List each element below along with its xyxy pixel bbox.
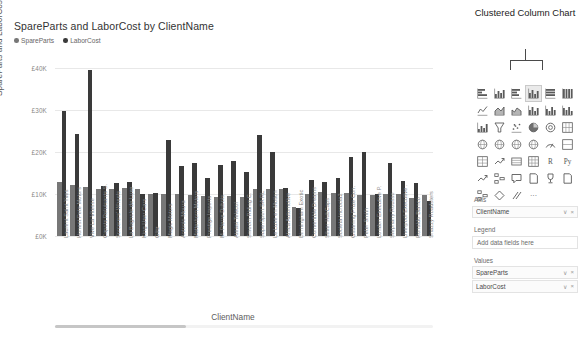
x-axis-tick-label: M. Pierre Dubois xyxy=(219,195,225,238)
y-axis-tick-label: £40K xyxy=(31,65,47,72)
x-axis-tick-label: Glitz xyxy=(154,226,160,238)
python-visual-icon[interactable]: Py xyxy=(559,153,576,170)
clustered-bar-chart-icon[interactable] xyxy=(508,85,525,102)
area-chart-icon[interactable] xyxy=(491,102,508,119)
x-axis-tick-label: Silver HubCaps xyxy=(324,198,330,238)
remove-field-icon[interactable]: × xyxy=(570,209,574,215)
x-axis-tick-label: Societa Incrocia2 xyxy=(337,193,343,238)
field-chip-laborcost-label: LaborCost xyxy=(476,283,560,290)
field-chip-clientname-label: ClientName xyxy=(476,208,560,215)
scatter-chart-icon[interactable] xyxy=(508,119,525,136)
hundred-percent-stacked-bar-chart-icon[interactable] xyxy=(542,85,559,102)
clustered-column-chart-icon[interactable] xyxy=(525,85,542,102)
y-axis-tick-label: £20K xyxy=(31,149,47,156)
legend-label-spareparts: SpareParts xyxy=(21,37,54,44)
shape-map-icon[interactable] xyxy=(508,136,525,153)
kpi-icon[interactable] xyxy=(491,153,508,170)
y-axis: £40K£30K£20K£10K£0K xyxy=(0,68,53,236)
chevron-down-icon[interactable]: ∨ xyxy=(563,208,567,215)
x-axis-tick-label: Honest Pete Motors xyxy=(76,187,82,238)
x-axis-tick-label: Matterhorn Motors xyxy=(193,191,199,238)
line-and-stacked-column-chart-icon[interactable] xyxy=(525,102,542,119)
x-axis-tick-label: Capots Reluisants S. xyxy=(102,184,108,238)
field-well-heading-legend: Legend xyxy=(474,226,578,233)
x-axis-tick-label: Ronaldo Bianco xyxy=(415,197,421,238)
x-axis-tick-label: Liverpool Executive . xyxy=(402,184,408,238)
stacked-column-chart-icon[interactable] xyxy=(491,85,508,102)
y-axis-tick-label: £10K xyxy=(31,191,47,198)
decomposition-tree-icon[interactable] xyxy=(491,170,508,187)
x-axis-tick-label: SuperSport SA RL xyxy=(259,191,265,238)
legend-swatch-laborcost xyxy=(63,38,68,43)
gridline xyxy=(55,152,433,153)
x-axis-tick-label: Snazzy Roadsters xyxy=(428,191,434,238)
field-wells[interactable]: AxisClientName∨×LegendAdd data fields he… xyxy=(472,196,578,301)
x-axis-title: ClientName xyxy=(0,312,466,322)
table-icon[interactable] xyxy=(525,153,542,170)
remove-field-icon[interactable]: × xyxy=(570,269,574,275)
slicer-icon[interactable] xyxy=(508,153,525,170)
multi-row-card-icon[interactable] xyxy=(474,153,491,170)
smart-narrative-icon[interactable] xyxy=(542,170,559,187)
x-axis-tick-label: Glittering Prize Con. xyxy=(350,186,356,238)
map-icon[interactable] xyxy=(474,136,491,153)
x-axis-tick-label: Laurent Saint Yves xyxy=(63,189,69,238)
x-axis-tick-label: Stephany Rousso xyxy=(389,192,395,238)
field-chip-clientname[interactable]: ClientName∨× xyxy=(472,206,578,219)
chart-legend[interactable]: SpareParts LaborCost xyxy=(14,37,101,44)
paginated-report-icon[interactable] xyxy=(525,170,542,187)
legend-item-spareparts[interactable]: SpareParts xyxy=(14,37,54,44)
y-axis-tick-label: £0K xyxy=(35,233,47,240)
hundred-percent-stacked-column-chart-icon[interactable] xyxy=(559,85,576,102)
visualizations-pane[interactable]: Clustered Column Chart RPy··· AxisClient… xyxy=(466,0,584,343)
x-axis-tick-label: Vive La Vitesse xyxy=(89,198,95,238)
field-chip-laborcost[interactable]: LaborCost∨× xyxy=(472,280,578,293)
chevron-down-icon[interactable]: ∨ xyxy=(563,269,567,276)
r-script-visual-icon[interactable]: R xyxy=(542,153,559,170)
gridline xyxy=(55,110,433,111)
metrics-icon[interactable] xyxy=(559,170,576,187)
treemap-icon[interactable] xyxy=(559,119,576,136)
r-script-visual-icon-label: R xyxy=(548,158,553,166)
stacked-bar-chart-icon[interactable] xyxy=(474,85,491,102)
x-axis-tick-label: Smooth Riding C. xyxy=(246,193,252,238)
field-chip-spareparts[interactable]: SpareParts∨× xyxy=(472,266,578,279)
key-influencers-icon[interactable] xyxy=(474,170,491,187)
chart-visual[interactable]: SpareParts and LaborCost by ClientName S… xyxy=(0,0,466,343)
x-axis-tick-label: King User Cars xyxy=(141,199,147,238)
donut-chart-icon[interactable] xyxy=(542,119,559,136)
x-axis-tick-label: London Executive P. xyxy=(376,186,382,239)
qanda-icon[interactable] xyxy=(508,170,525,187)
python-visual-icon-label: Py xyxy=(564,158,572,166)
line-chart-icon[interactable] xyxy=(474,102,491,119)
x-axis-tick-label: Peter Smith xyxy=(363,208,369,238)
callout-text: Clustered Column Chart xyxy=(466,6,584,19)
x-axis-tick-label: Birmingham Exotic xyxy=(298,190,304,238)
x-axis-tick-label: Sorcerers' Wheels xyxy=(115,191,121,238)
field-well-heading-axis: Axis xyxy=(474,196,578,203)
legend-swatch-spareparts xyxy=(14,38,19,43)
x-axis-tick-label: Convertible Dreams xyxy=(311,187,317,238)
x-axis-tick-label: Magic Motors xyxy=(167,203,173,238)
arcgis-map-icon[interactable] xyxy=(525,136,542,153)
chart-title: SpareParts and LaborCost by ClientName xyxy=(14,20,214,32)
funnel-chart-icon[interactable] xyxy=(491,119,508,136)
card-icon[interactable] xyxy=(559,136,576,153)
waterfall-chart-icon[interactable] xyxy=(474,119,491,136)
visualization-type-grid[interactable]: RPy··· xyxy=(474,85,578,204)
chevron-down-icon[interactable]: ∨ xyxy=(563,283,567,290)
filled-map-icon[interactable] xyxy=(491,136,508,153)
line-and-clustered-column-chart-icon[interactable] xyxy=(542,102,559,119)
legend-drop-zone[interactable]: Add data fields here xyxy=(472,236,578,249)
remove-field-icon[interactable]: × xyxy=(570,283,574,289)
horizontal-scrollbar-thumb[interactable] xyxy=(55,325,186,328)
gauge-icon[interactable] xyxy=(542,136,559,153)
callout-bracket xyxy=(510,60,543,70)
field-well-heading-values: Values xyxy=(474,257,578,264)
stacked-area-chart-icon[interactable] xyxy=(508,102,525,119)
legend-item-laborcost[interactable]: LaborCost xyxy=(63,37,101,44)
horizontal-scrollbar-track[interactable] xyxy=(55,325,433,328)
ribbon-chart-icon[interactable] xyxy=(559,102,576,119)
pie-chart-icon[interactable] xyxy=(525,119,542,136)
x-axis-tick-labels: Laurent Saint YvesHonest Pete MotorsVive… xyxy=(55,238,433,310)
